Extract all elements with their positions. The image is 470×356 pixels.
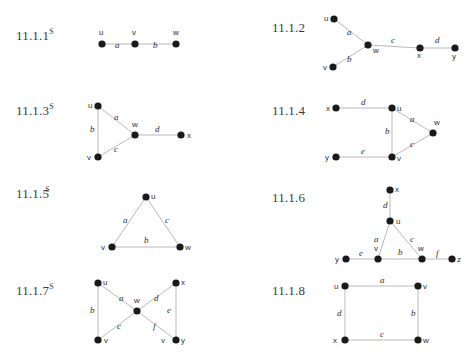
- exercise-number-text: 11.1.2: [272, 20, 305, 35]
- vertex-label-w: w: [417, 244, 424, 253]
- edge-label-d: d: [154, 293, 159, 303]
- graph-11-1-3: abcduvwx: [84, 100, 219, 182]
- exercise-figure-page: 11.1.1Sabuvw11.1.2abcduvwxy11.1.3Sabcduv…: [0, 0, 470, 356]
- exercise-number-11-1-8: 11.1.8: [272, 283, 305, 299]
- graph-vertex-v: [388, 153, 395, 160]
- vertex-label-y: y: [325, 153, 329, 162]
- edge-label-c: c: [391, 35, 395, 45]
- edge-label-d: d: [337, 308, 342, 318]
- graph-vertex-u: [142, 193, 149, 200]
- edge-label-c: c: [380, 329, 384, 339]
- edge-label-d: d: [435, 35, 440, 45]
- exercise-11-1-1: 11.1.1Sabuvw: [0, 0, 470, 356]
- exercise-number-text: 11.1.8: [272, 283, 305, 298]
- graph-vertex-y: [342, 255, 349, 262]
- edge-label-d: d: [155, 124, 160, 134]
- vertex-label-v: v: [423, 282, 427, 291]
- vertex-label-y: y: [335, 255, 339, 264]
- exercise-number-11-1-7: 11.1.7S: [16, 283, 54, 299]
- edge-label-f: f: [436, 248, 440, 258]
- graph-vertex-v: [94, 153, 101, 160]
- vertex-label-x: x: [417, 51, 421, 60]
- graph-edge-a: [112, 197, 146, 247]
- graph-edge-c: [390, 221, 422, 259]
- vertex-label-v: v: [101, 243, 105, 252]
- edge-label-a: a: [114, 112, 119, 122]
- vertex-label-u: u: [151, 192, 155, 201]
- vertex-label-y: y: [452, 52, 456, 61]
- exercise-solution-marker: S: [49, 102, 54, 111]
- exercise-11-1-8: 11.1.8abcduvwx: [0, 0, 470, 356]
- exercise-11-1-5: 11.1.5Sacbuvw: [0, 0, 470, 356]
- graph-edge-c: [98, 135, 135, 157]
- vertex-label-w: w: [184, 243, 191, 252]
- graph-edge-a: [334, 19, 368, 45]
- graph-vertex-u: [386, 217, 393, 224]
- edge-label-d: d: [361, 97, 366, 107]
- vertex-label-v: v: [323, 63, 327, 72]
- graph-vertex-v: [131, 40, 138, 47]
- edge-label-c: c: [165, 215, 169, 225]
- graph-11-1-4: dabcexuwvy: [330, 100, 470, 182]
- exercise-solution-marker: S: [49, 282, 54, 291]
- graph-vertex-u: [94, 279, 101, 286]
- exercise-number-text: 11.1.7: [16, 283, 49, 298]
- edge-label-c: c: [117, 321, 121, 331]
- exercise-number-text: 11.1.5: [16, 186, 49, 201]
- graph-vertex-v: [94, 336, 101, 343]
- graph-11-1-1: abuvw: [88, 22, 218, 76]
- edge-label-e: e: [361, 146, 365, 156]
- graph-vertex-u: [98, 40, 105, 47]
- vertex-label-v: v: [132, 28, 136, 37]
- exercise-number-text: 11.1.6: [272, 190, 305, 205]
- edge-label-a: a: [123, 215, 128, 225]
- vertex-label-w: w: [422, 336, 429, 345]
- graph-edge-a: [378, 221, 390, 259]
- graph-vertex-y: [172, 336, 179, 343]
- graph-edge-a: [392, 108, 433, 133]
- edge-label-c: c: [114, 144, 118, 154]
- edge-label-a: a: [410, 114, 415, 124]
- graph-vertex-z: [448, 255, 455, 262]
- vertex-label-z: z: [457, 255, 461, 264]
- graph-vertex-x: [172, 279, 179, 286]
- graph-edge-a: [98, 283, 137, 311]
- edge-label-b: b: [144, 235, 149, 245]
- edge-label-b: b: [385, 126, 390, 136]
- graph-vertex-v: [414, 282, 421, 289]
- graph-vertex-w: [414, 336, 421, 343]
- graph-vertex-x: [416, 44, 423, 51]
- graph-edge-b: [333, 45, 368, 67]
- vertex-label-y: y: [181, 336, 185, 345]
- edge-label-b: b: [347, 54, 352, 64]
- graph-11-1-2: abcduvwxy: [320, 12, 470, 92]
- vertex-label-w: w: [131, 120, 138, 129]
- vertex-label-v: v: [87, 153, 91, 162]
- graph-vertex-w: [429, 129, 436, 136]
- graph-vertex-x: [386, 186, 393, 193]
- graph-vertex-w: [418, 255, 425, 262]
- exercise-number-11-1-3: 11.1.3S: [16, 103, 54, 119]
- vertex-label-w: w: [372, 46, 379, 55]
- vertex-label-x: x: [326, 104, 330, 113]
- vertex-label-w: w: [433, 118, 440, 127]
- exercise-11-1-3: 11.1.3Sabcduvwx: [0, 0, 470, 356]
- graph-vertex-y: [332, 153, 339, 160]
- vertex-label-x: x: [395, 185, 399, 194]
- exercise-solution-marker: S: [45, 185, 50, 194]
- vertex-label-x: x: [181, 278, 185, 287]
- graph-vertex-x: [332, 104, 339, 111]
- edge-label-b: b: [90, 305, 95, 315]
- graph-edge-f: [137, 311, 176, 340]
- vertex-label-w: w: [172, 28, 179, 37]
- edge-label-a: a: [347, 27, 352, 37]
- vertex-label-extra-v: v: [161, 336, 165, 345]
- vertex-label-u: u: [103, 278, 107, 287]
- graph-vertex-u: [341, 282, 348, 289]
- edge-label-e: e: [359, 248, 363, 258]
- vertex-label-u: u: [396, 217, 400, 226]
- exercise-number-11-1-1: 11.1.1S: [16, 28, 54, 44]
- graph-vertex-y: [451, 44, 458, 51]
- vertex-label-x: x: [187, 131, 191, 140]
- edge-label-a: a: [380, 275, 385, 285]
